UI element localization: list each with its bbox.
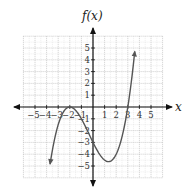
y-tick-label: 3 bbox=[85, 67, 90, 77]
y-tick-label: 1 bbox=[85, 90, 90, 100]
y-tick-label: −5 bbox=[77, 161, 90, 171]
x-tick-label: 2 bbox=[113, 110, 118, 120]
x-tick-label: 4 bbox=[137, 110, 142, 120]
x-tick-label: 5 bbox=[148, 110, 153, 120]
y-tick-label: −3 bbox=[77, 137, 90, 147]
y-tick-label: 4 bbox=[85, 55, 90, 65]
function-graph: −5−4−3−2−112345−5−4−3−2−112345 f(x) x bbox=[0, 0, 186, 191]
axes bbox=[14, 28, 172, 186]
y-tick-label: 5 bbox=[85, 43, 90, 53]
x-axis-title: x bbox=[175, 100, 182, 114]
y-tick-label: −4 bbox=[77, 149, 90, 159]
y-tick-label: 2 bbox=[85, 78, 90, 88]
x-tick-label: 1 bbox=[102, 110, 107, 120]
y-axis-title: f(x) bbox=[81, 9, 103, 23]
